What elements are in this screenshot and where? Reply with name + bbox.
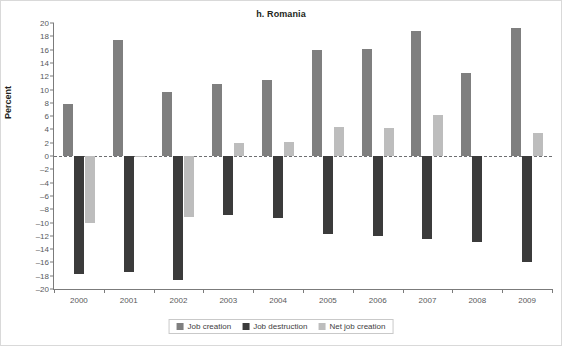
bar-job-destruction-2007 xyxy=(422,156,432,239)
x-axis-tick-mark xyxy=(552,289,553,293)
x-axis-tick-label-2000: 2000 xyxy=(70,296,88,305)
x-axis-tick-mark xyxy=(104,289,105,293)
bar-group xyxy=(54,23,104,289)
x-axis-tick-mark xyxy=(353,289,354,293)
bar-job-destruction-2006 xyxy=(373,156,383,236)
bar-job-destruction-2005 xyxy=(323,156,333,234)
x-axis-tick-mark xyxy=(203,289,204,293)
chart-legend: Job creationJob destructionNet job creat… xyxy=(169,319,394,334)
legend-item[interactable]: Job destruction xyxy=(242,322,307,331)
bar-job-creation-2007 xyxy=(411,31,421,156)
bar-job-destruction-2004 xyxy=(273,156,283,218)
bar-job-destruction-2003 xyxy=(223,156,233,215)
bar-job-destruction-2009 xyxy=(522,156,532,262)
bar-group xyxy=(104,23,154,289)
legend-swatch-icon xyxy=(177,323,184,330)
bar-job-creation-2003 xyxy=(212,84,222,156)
legend-label: Job creation xyxy=(188,322,232,331)
bar-group xyxy=(303,23,353,289)
bar-net-job-creation-2003 xyxy=(234,143,244,156)
legend-item[interactable]: Job creation xyxy=(177,322,232,331)
bar-group xyxy=(403,23,453,289)
bar-job-creation-2005 xyxy=(312,50,322,156)
x-axis-tick-mark xyxy=(54,289,55,293)
chart-figure: h. Romania Percent 20181614121086420–2–4… xyxy=(0,0,562,346)
bar-job-creation-2009 xyxy=(511,28,521,156)
chart-title: h. Romania xyxy=(1,9,561,19)
bar-net-job-creation-2000 xyxy=(85,156,95,223)
bar-net-job-creation-2004 xyxy=(284,142,294,156)
bar-job-creation-2002 xyxy=(162,92,172,156)
bar-net-job-creation-2005 xyxy=(334,127,344,156)
bar-group xyxy=(253,23,303,289)
x-axis-tick-label-2007: 2007 xyxy=(419,296,437,305)
x-axis-tick-label-2001: 2001 xyxy=(120,296,138,305)
bar-job-creation-2000 xyxy=(63,104,73,156)
y-axis-label: Percent xyxy=(3,86,13,119)
x-axis-tick-label-2004: 2004 xyxy=(269,296,287,305)
bar-job-destruction-2002 xyxy=(173,156,183,280)
bar-group xyxy=(502,23,552,289)
legend-label: Job destruction xyxy=(253,322,307,331)
bar-job-destruction-2008 xyxy=(472,156,482,242)
x-axis-tick-label-2008: 2008 xyxy=(468,296,486,305)
bar-group xyxy=(452,23,502,289)
bar-net-job-creation-2001 xyxy=(135,156,145,157)
legend-item[interactable]: Net job creation xyxy=(318,322,385,331)
bar-net-job-creation-2006 xyxy=(384,128,394,156)
x-axis-tick-mark xyxy=(452,289,453,293)
x-axis-tick-mark xyxy=(154,289,155,293)
x-axis-tick-mark xyxy=(403,289,404,293)
bar-job-destruction-2001 xyxy=(124,156,134,272)
x-axis-tick-mark xyxy=(253,289,254,293)
x-axis-tick-label-2003: 2003 xyxy=(219,296,237,305)
x-axis-tick-mark xyxy=(303,289,304,293)
bar-group xyxy=(154,23,204,289)
bar-net-job-creation-2007 xyxy=(433,115,443,156)
x-axis-tick-mark xyxy=(502,289,503,293)
legend-label: Net job creation xyxy=(329,322,385,331)
plot-area: 20181614121086420–2–4–6–8–10–12–14–16–18… xyxy=(54,23,552,289)
bar-job-creation-2001 xyxy=(113,40,123,156)
bar-job-creation-2004 xyxy=(262,80,272,156)
x-axis-tick-label-2009: 2009 xyxy=(518,296,536,305)
x-axis-tick-label-2002: 2002 xyxy=(170,296,188,305)
legend-swatch-icon xyxy=(318,323,325,330)
bar-net-job-creation-2002 xyxy=(184,156,194,217)
legend-swatch-icon xyxy=(242,323,249,330)
bar-group xyxy=(353,23,403,289)
bar-job-creation-2006 xyxy=(362,49,372,156)
bar-job-destruction-2000 xyxy=(74,156,84,274)
x-axis-tick-label-2006: 2006 xyxy=(369,296,387,305)
bar-job-creation-2008 xyxy=(461,73,471,156)
bar-group xyxy=(203,23,253,289)
bar-net-job-creation-2009 xyxy=(533,133,543,156)
x-axis-tick-label-2005: 2005 xyxy=(319,296,337,305)
